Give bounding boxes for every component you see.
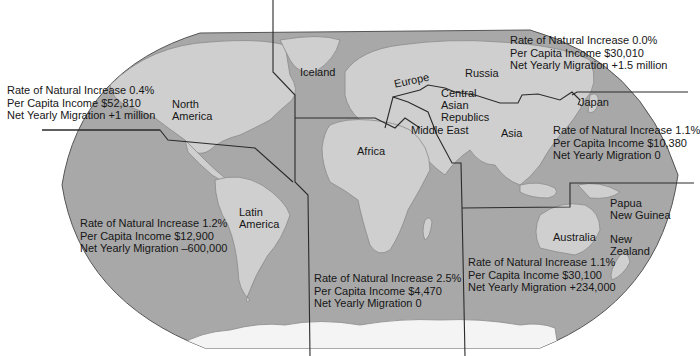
label-papua-line2: New Guinea bbox=[610, 209, 671, 221]
stat-natural-increase: Rate of Natural Increase 2.5% bbox=[314, 272, 461, 285]
label-latin-america: Latin America bbox=[239, 206, 279, 230]
label-japan: Japan bbox=[579, 96, 609, 108]
label-north-america: North America bbox=[172, 98, 212, 122]
label-africa: Africa bbox=[357, 145, 385, 157]
stat-natural-increase: Rate of Natural Increase 1.1% bbox=[553, 124, 700, 137]
stat-migration: Net Yearly Migration +1 million bbox=[7, 109, 155, 122]
stats-africa: Rate of Natural Increase 2.5% Per Capita… bbox=[314, 272, 461, 310]
stat-migration: Net Yearly Migration 0 bbox=[314, 297, 461, 310]
label-asia: Asia bbox=[501, 127, 522, 139]
label-latin-america-line2: America bbox=[239, 218, 279, 230]
stat-migration: Net Yearly Migration 0 bbox=[553, 149, 700, 162]
stats-oceania: Rate of Natural Increase 1.1% Per Capita… bbox=[468, 256, 616, 294]
stat-income: Per Capita Income $52,810 bbox=[7, 97, 155, 110]
stat-natural-increase: Rate of Natural Increase 1.2% bbox=[80, 217, 227, 230]
stat-income: Per Capita Income $30,010 bbox=[510, 47, 667, 60]
stat-migration: Net Yearly Migration –600,000 bbox=[80, 242, 227, 255]
label-north-america-line2: America bbox=[172, 110, 212, 122]
label-central-asian-line1: Central bbox=[441, 87, 489, 99]
label-latin-america-line1: Latin bbox=[239, 206, 279, 218]
label-middle-east: Middle East bbox=[411, 124, 468, 136]
label-central-asian-line2: Asian bbox=[441, 99, 489, 111]
stats-latin-america: Rate of Natural Increase 1.2% Per Capita… bbox=[80, 217, 227, 255]
label-iceland: Iceland bbox=[300, 66, 335, 78]
stats-russia: Rate of Natural Increase 0.0% Per Capita… bbox=[510, 34, 667, 72]
label-central-asian-republics: Central Asian Republics bbox=[441, 87, 489, 123]
label-papua-line1: Papua bbox=[610, 197, 671, 209]
stats-north-america: Rate of Natural Increase 0.4% Per Capita… bbox=[7, 84, 155, 122]
stat-income: Per Capita Income $10,380 bbox=[553, 137, 700, 150]
label-new-zealand-line1: New bbox=[610, 233, 650, 245]
label-papua-new-guinea: Papua New Guinea bbox=[610, 197, 671, 221]
stat-income: Per Capita Income $4,470 bbox=[314, 285, 461, 298]
stat-income: Per Capita Income $30,100 bbox=[468, 269, 616, 282]
label-central-asian-line3: Republics bbox=[441, 111, 489, 123]
label-new-zealand: New Zealand bbox=[610, 233, 650, 257]
stat-income: Per Capita Income $12,900 bbox=[80, 230, 227, 243]
stat-migration: Net Yearly Migration +1.5 million bbox=[510, 59, 667, 72]
label-new-zealand-line2: Zealand bbox=[610, 245, 650, 257]
stat-migration: Net Yearly Migration +234,000 bbox=[468, 281, 616, 294]
stats-asia: Rate of Natural Increase 1.1% Per Capita… bbox=[553, 124, 700, 162]
stat-natural-increase: Rate of Natural Increase 1.1% bbox=[468, 256, 616, 269]
stat-natural-increase: Rate of Natural Increase 0.4% bbox=[7, 84, 155, 97]
label-australia: Australia bbox=[553, 231, 596, 243]
label-russia: Russia bbox=[465, 67, 499, 79]
stat-natural-increase: Rate of Natural Increase 0.0% bbox=[510, 34, 667, 47]
label-north-america-line1: North bbox=[172, 98, 212, 110]
